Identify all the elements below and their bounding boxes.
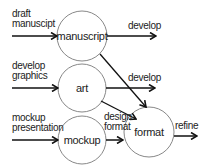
input-label-graphics: graphics — [12, 71, 47, 81]
output-label-develop-1: develop — [128, 21, 161, 31]
node-art-label: art — [76, 83, 88, 94]
input-label-manuscipt: manuscipt — [12, 19, 55, 29]
output-label-format: format — [104, 122, 131, 132]
output-label-develop-2: develop — [128, 73, 161, 83]
node-format-label: format — [134, 127, 163, 138]
node-mockup-label: mockup — [64, 135, 101, 146]
node-manuscript-label: manuscript — [57, 31, 108, 42]
input-label-presentation: presentation — [12, 123, 63, 133]
output-label-refine: refine — [175, 121, 198, 131]
